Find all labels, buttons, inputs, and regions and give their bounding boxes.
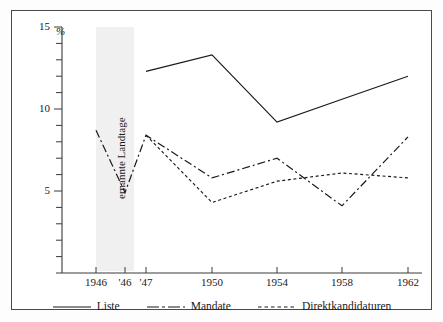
chart-legend: Liste Mandate Direktkandidaturen <box>12 298 431 316</box>
legend-swatch-solid-icon <box>52 302 92 312</box>
y-tick-label-15: 15 <box>24 20 50 32</box>
chart-plot-area <box>12 11 431 309</box>
y-tick-label-5: 5 <box>24 184 50 196</box>
x-axis-ticks <box>96 267 408 273</box>
chart-frame: % 15 10 5 1946 '46 '47 1950 1954 1958 19… <box>11 10 432 310</box>
legend-label-direktkandidaturen: Direktkandidaturen <box>302 301 391 313</box>
legend-swatch-dash-dot-icon <box>146 302 186 312</box>
series-line-direktkandidaturen <box>146 135 408 202</box>
x-tick-label-47: '47 <box>133 276 159 288</box>
chart-page: % 15 10 5 1946 '46 '47 1950 1954 1958 19… <box>0 0 443 322</box>
x-tick-label-1962: 1962 <box>390 276 426 288</box>
series-line-liste <box>146 55 408 122</box>
annotation-ernannte-landtage: ernannte Landtage <box>115 117 127 199</box>
legend-item-liste: Liste <box>52 301 120 313</box>
legend-label-mandate: Mandate <box>191 301 231 313</box>
x-tick-label-1954: 1954 <box>259 276 295 288</box>
x-tick-label-1946: 1946 <box>78 276 114 288</box>
x-tick-label-1958: 1958 <box>324 276 360 288</box>
y-tick-label-10: 10 <box>24 102 50 114</box>
y-axis-ticks <box>54 27 62 273</box>
legend-label-liste: Liste <box>97 301 120 313</box>
legend-item-direktkandidaturen: Direktkandidaturen <box>257 301 391 313</box>
x-tick-label-1950: 1950 <box>194 276 230 288</box>
series-line-mandate <box>96 130 408 206</box>
y-axis-unit-label: % <box>56 25 65 37</box>
legend-item-mandate: Mandate <box>146 301 231 313</box>
legend-swatch-dotted-icon <box>257 302 297 312</box>
